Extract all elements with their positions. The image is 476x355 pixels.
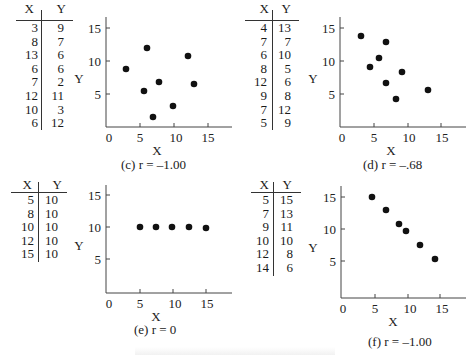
y-axis-label: Y (308, 71, 318, 86)
x-tick-15: 15 (202, 130, 215, 145)
x-tick-5: 5 (372, 301, 379, 316)
caption-c: (c) r = –1.00 (121, 157, 186, 173)
y-tick-5: 5 (329, 87, 336, 102)
y-tick-10: 10 (88, 54, 101, 69)
x-axis-label: X (388, 314, 398, 329)
data-points (123, 45, 198, 121)
y-tick-15: 15 (323, 190, 336, 205)
y-tick-5: 5 (95, 252, 102, 267)
axes (341, 186, 466, 298)
x-tick-10: 10 (404, 301, 417, 316)
data-points (358, 33, 432, 103)
caption-d: (d) r = –.68 (363, 157, 422, 173)
x-tick-0: 0 (340, 301, 347, 316)
data-points (137, 224, 210, 232)
x-axis-label: X (386, 143, 396, 158)
x-tick-5: 5 (371, 130, 378, 145)
x-tick-0: 0 (106, 130, 113, 145)
data-points (369, 194, 439, 263)
y-tick-15: 15 (88, 21, 101, 36)
y-tick-5: 5 (330, 254, 337, 269)
cut-off-figure-caption (135, 347, 335, 355)
x-tick-15: 15 (436, 130, 449, 145)
x-tick-10: 10 (170, 130, 183, 145)
caption-e: (e) r = 0 (134, 322, 176, 338)
scatter-plot-f: 15 10 5 0 5 10 15 X Y (238, 175, 476, 355)
x-tick-10: 10 (403, 130, 416, 145)
x-tick-10: 10 (169, 296, 182, 311)
x-tick-5: 5 (137, 296, 144, 311)
x-tick-15: 15 (436, 301, 449, 316)
y-tick-5: 5 (95, 87, 102, 102)
y-tick-10: 10 (88, 220, 101, 235)
y-tick-15: 15 (322, 21, 335, 36)
y-axis-label: Y (74, 71, 84, 86)
x-tick-15: 15 (201, 296, 214, 311)
axes (106, 185, 232, 293)
scatter-plot-d: 15 10 5 0 5 10 15 X Y (238, 0, 476, 175)
y-axis-label: Y (308, 240, 318, 255)
scatter-plot-c: 15 10 5 0 5 10 15 X Y (0, 0, 238, 175)
x-tick-5: 5 (137, 130, 144, 145)
y-axis-label: Y (74, 238, 84, 253)
x-axis-label: X (152, 143, 162, 158)
scatter-plot-e: 15 10 5 0 5 10 15 X Y (0, 175, 238, 325)
y-tick-10: 10 (323, 222, 336, 237)
x-tick-0: 0 (106, 296, 113, 311)
y-tick-10: 10 (322, 54, 335, 69)
x-tick-0: 0 (339, 130, 346, 145)
y-tick-15: 15 (88, 188, 101, 203)
caption-f: (f) r = –1.00 (368, 334, 432, 350)
